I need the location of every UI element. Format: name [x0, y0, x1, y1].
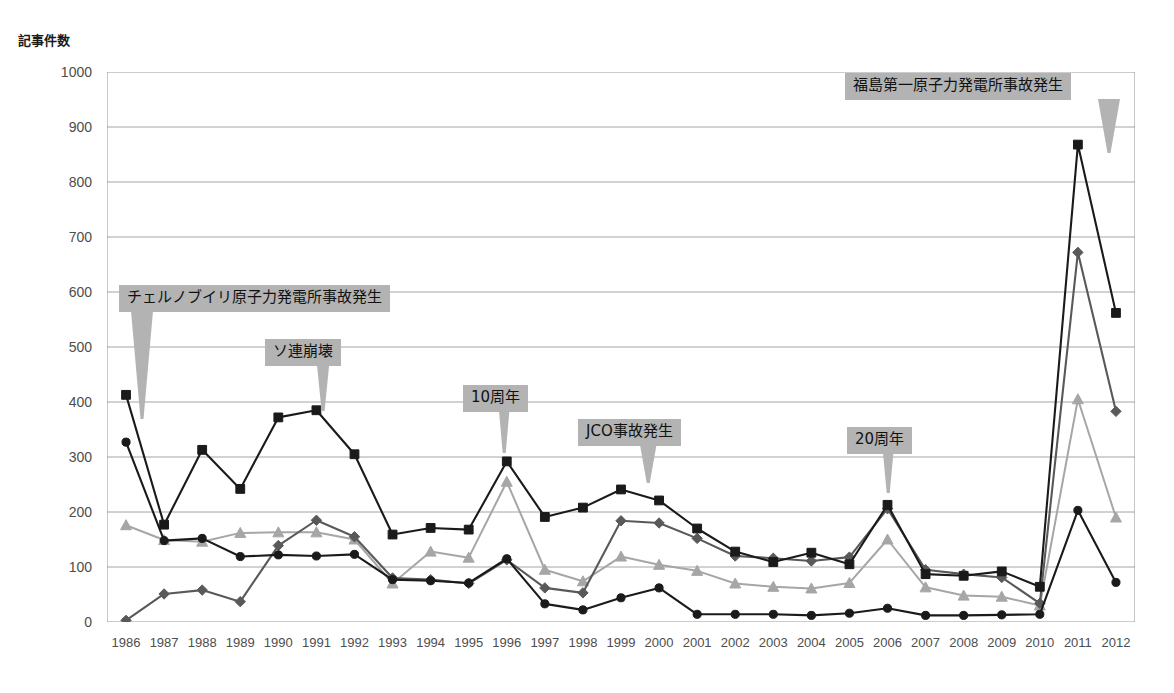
data-point-marker — [122, 438, 130, 446]
data-point-marker — [883, 604, 891, 612]
annotation-pointer-twentieth-anniversary — [883, 453, 897, 493]
data-point-marker — [464, 525, 473, 534]
data-point-marker — [1111, 406, 1121, 416]
data-point-marker — [692, 533, 702, 543]
data-point-marker — [693, 524, 702, 533]
data-point-marker — [579, 606, 587, 614]
data-point-marker — [236, 485, 245, 494]
data-point-marker — [616, 516, 626, 526]
data-point-marker — [655, 584, 663, 592]
data-point-marker — [616, 551, 627, 561]
data-point-marker — [1110, 512, 1121, 522]
data-point-marker — [882, 534, 893, 544]
data-point-marker — [960, 611, 968, 619]
x-tick-label: 2012 — [1094, 636, 1138, 650]
data-point-marker — [1035, 582, 1044, 591]
annotation-pointer-jco-accident — [640, 445, 660, 483]
data-point-marker — [274, 413, 283, 422]
data-point-marker — [769, 558, 778, 567]
data-point-marker — [274, 551, 282, 559]
y-tick-label: 400 — [20, 395, 92, 409]
data-point-marker — [578, 588, 588, 598]
data-point-marker — [731, 547, 740, 556]
data-point-marker — [236, 553, 244, 561]
annotation-label: JCO事故発生 — [578, 419, 681, 446]
data-point-marker — [465, 579, 473, 587]
data-point-marker — [121, 520, 132, 530]
data-point-marker — [350, 450, 359, 459]
data-point-marker — [503, 555, 511, 563]
y-tick-label: 800 — [20, 175, 92, 189]
data-point-marker — [921, 570, 930, 579]
data-point-marker — [541, 600, 549, 608]
data-point-marker — [807, 548, 816, 557]
annotation-tenth-anniversary: 10周年 — [463, 385, 528, 412]
annotation-pointer-soviet-collapse — [317, 365, 333, 411]
series-lines — [107, 72, 1135, 622]
annotation-jco-accident: JCO事故発生 — [578, 419, 681, 446]
data-point-marker — [312, 552, 320, 560]
plot-area — [107, 72, 1135, 622]
data-point-marker — [388, 530, 397, 539]
data-point-marker — [425, 546, 436, 556]
data-point-marker — [539, 564, 550, 574]
data-point-marker — [350, 550, 358, 558]
y-tick-label: 200 — [20, 505, 92, 519]
data-point-marker — [160, 537, 168, 545]
data-point-marker — [198, 445, 207, 454]
data-point-marker — [1112, 309, 1121, 318]
y-tick-label: 300 — [20, 450, 92, 464]
y-tick-label: 700 — [20, 230, 92, 244]
data-point-marker — [540, 513, 549, 522]
annotation-label: ソ連崩壊 — [265, 339, 341, 366]
data-point-marker — [1074, 506, 1082, 514]
data-point-marker — [769, 610, 777, 618]
data-point-marker — [997, 567, 1006, 576]
data-point-marker — [122, 390, 131, 399]
y-tick-label: 1000 — [20, 65, 92, 79]
data-point-marker — [389, 576, 397, 584]
data-point-marker — [1073, 247, 1083, 257]
series-circle — [122, 438, 1120, 619]
data-point-marker — [845, 609, 853, 617]
data-point-marker — [807, 611, 815, 619]
data-point-marker — [501, 476, 512, 486]
data-point-marker — [998, 611, 1006, 619]
chart-canvas: 記事件数 01002003004005006007008009001000 19… — [0, 0, 1174, 693]
annotation-label: 20周年 — [847, 427, 912, 454]
data-point-marker — [427, 577, 435, 585]
data-point-marker — [731, 610, 739, 618]
data-point-marker — [198, 534, 206, 542]
y-tick-label: 900 — [20, 120, 92, 134]
data-point-marker — [959, 571, 968, 580]
data-point-marker — [197, 585, 207, 595]
data-point-marker — [1112, 578, 1120, 586]
y-tick-label: 100 — [20, 560, 92, 574]
data-point-marker — [617, 485, 626, 494]
data-point-marker — [1073, 140, 1082, 149]
y-tick-label: 600 — [20, 285, 92, 299]
data-point-marker — [883, 500, 892, 509]
y-tick-label: 500 — [20, 340, 92, 354]
data-point-marker — [654, 518, 664, 528]
annotation-pointer-fukushima-daiichi — [1098, 99, 1124, 153]
data-point-marker — [1036, 610, 1044, 618]
data-point-marker — [693, 610, 701, 618]
annotation-twentieth-anniversary: 20周年 — [847, 427, 912, 454]
data-point-marker — [845, 560, 854, 569]
annotation-fukushima-daiichi: 福島第一原子力発電所事故発生 — [845, 73, 1071, 100]
annotation-label: 福島第一原子力発電所事故発生 — [845, 73, 1071, 100]
data-point-marker — [426, 524, 435, 533]
data-point-marker — [1072, 394, 1083, 404]
annotation-pointer-chernobyl — [131, 311, 157, 419]
y-tick-label: 0 — [20, 615, 92, 629]
annotation-chernobyl: チェルノブイリ原子力発電所事故発生 — [119, 285, 390, 312]
data-point-marker — [922, 611, 930, 619]
data-point-marker — [160, 520, 169, 529]
data-point-marker — [121, 615, 131, 622]
y-axis-title: 記事件数 — [18, 30, 70, 49]
annotation-soviet-collapse: ソ連崩壊 — [265, 339, 341, 366]
data-point-marker — [617, 594, 625, 602]
data-point-marker — [655, 496, 664, 505]
annotation-label: 10周年 — [463, 385, 528, 412]
